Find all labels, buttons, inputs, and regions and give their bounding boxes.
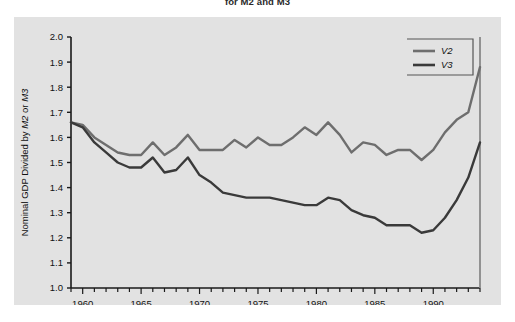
y-tick-label: 1.3 [50,207,63,218]
x-tick-label: 1975 [247,298,268,305]
x-axis-ticks: 1960196519701975198019851990 [71,288,480,305]
y-tick-label: 1.9 [50,57,63,68]
y-tick-label: 1.6 [50,132,63,143]
x-tick-label: 1965 [131,298,152,305]
legend-label-v2: V2 [441,45,453,56]
y-tick-label: 1.7 [50,107,63,118]
x-tick-label: 1990 [423,298,444,305]
y-tick-label: 1.8 [50,82,63,93]
x-tick-label: 1970 [189,298,210,305]
y-tick-label: 1.1 [50,257,63,268]
y-axis-title: Nominal GDP Divided by M2 or M3 [19,88,30,236]
x-tick-label: 1985 [364,298,385,305]
series-line-v3 [71,122,480,232]
x-tick-label: 1960 [72,298,93,305]
chart-panel: 1.01.11.21.31.41.51.61.71.81.92.0 196019… [14,17,501,305]
y-axis-ticks: 1.01.11.21.31.41.51.61.71.81.92.0 [50,31,71,293]
line-chart-svg: 1.01.11.21.31.41.51.61.71.81.92.0 196019… [14,17,501,305]
y-tick-label: 1.5 [50,157,63,168]
y-tick-label: 1.0 [50,282,63,293]
x-tick-label: 1980 [306,298,327,305]
data-series [71,67,480,233]
y-tick-label: 1.2 [50,232,63,243]
series-line-v2 [71,67,480,160]
y-tick-label: 1.4 [50,182,63,193]
chart-title: for M2 and M3 [0,0,515,9]
legend-label-v3: V3 [441,59,453,70]
y-axis-label: Nominal GDP Divided by M2 or M3 [19,88,30,236]
y-tick-label: 2.0 [50,31,63,42]
legend-box [407,39,473,75]
figure-container: for M2 and M3 1.01.11.21.31.41.51.61.71.… [0,0,515,322]
chart-legend: V2V3 [407,39,473,75]
